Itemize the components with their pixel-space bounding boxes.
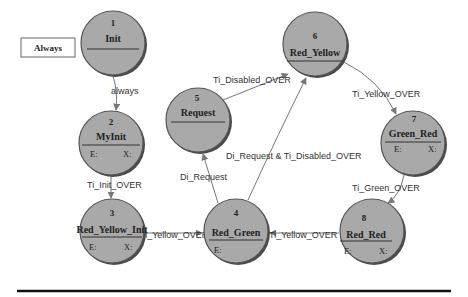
edge-label: Di_Request — [180, 172, 228, 182]
node-exit: X: — [123, 149, 132, 159]
node-entry: E: — [344, 246, 352, 256]
edge-label: Ti_Yellow_OVER — [140, 230, 209, 240]
node-6-red-yellow[interactable]: 6 Red_Yellow — [283, 12, 349, 78]
node-3-red-yellow-init[interactable]: 3 Red_Yellow_Init E: X: — [76, 199, 148, 265]
node-number: 2 — [109, 117, 114, 127]
node-name: Red_Yellow_Init — [76, 224, 148, 235]
node-number: 5 — [195, 93, 200, 103]
edge-3-4[interactable]: Ti_Yellow_OVER — [140, 230, 209, 240]
node-number: 8 — [362, 213, 367, 223]
node-name: Request — [181, 107, 216, 118]
node-number: 7 — [412, 114, 417, 124]
node-number: 6 — [313, 31, 318, 41]
node-number: 3 — [110, 208, 115, 218]
edge-2-3[interactable]: Ti_Init_OVER — [87, 176, 142, 198]
always-legend-label: Always — [34, 43, 62, 53]
node-exit: X: — [428, 144, 437, 154]
edge-label: Ti_Yellow_OVER — [269, 230, 338, 240]
node-entry: E: — [90, 149, 98, 159]
node-name: MyInit — [96, 131, 127, 142]
edge-label: Ti_Disabled_OVER — [213, 75, 291, 85]
node-4-red-green[interactable]: 4 Red_Green E: — [204, 199, 270, 265]
node-8-red-red[interactable]: 8 Red_Red E: X: — [340, 199, 406, 265]
node-name: Init — [105, 33, 121, 44]
edge-8-4[interactable]: Ti_Yellow_OVER — [269, 230, 339, 240]
node-entry: E: — [394, 144, 402, 154]
node-entry: E: — [89, 242, 97, 252]
always-legend-box: Always — [21, 38, 75, 57]
edge-4-6[interactable]: Di_Request & Ti_Disabled_OVER — [226, 78, 362, 200]
edge-label: Ti_Yellow_OVER — [352, 89, 421, 99]
edge-7-8[interactable]: Ti_Green_OVER — [352, 175, 420, 203]
edge-5-6[interactable]: Ti_Disabled_OVER — [213, 74, 291, 100]
edge-label: Ti_Green_OVER — [352, 183, 420, 193]
edge-1-2[interactable]: always — [111, 76, 139, 110]
node-2-myinit[interactable]: 2 MyInit E: X: — [79, 111, 145, 177]
node-7-green-red[interactable]: 7 Green_Red E: X: — [381, 111, 447, 177]
node-number: 4 — [234, 208, 239, 218]
node-name: Red_Yellow — [290, 47, 341, 58]
node-exit: X: — [379, 246, 388, 256]
state-diagram: Always always Ti_Init_OVER Ti_Yellow_OVE… — [0, 0, 468, 297]
edge-label: Ti_Init_OVER — [87, 180, 142, 190]
node-name: Red_Green — [212, 227, 261, 238]
node-name: Red_Red — [346, 229, 386, 240]
node-5-request[interactable]: 5 Request — [166, 88, 232, 154]
node-name: Green_Red — [389, 128, 438, 139]
edge-6-7[interactable]: Ti_Yellow_OVER — [344, 62, 421, 114]
edge-4-5[interactable]: Di_Request — [180, 154, 228, 203]
edge-label: always — [111, 86, 139, 96]
node-entry: E: — [214, 245, 222, 255]
node-1-init[interactable]: 1 Init — [81, 11, 147, 77]
node-number: 1 — [111, 18, 116, 28]
edge-label: Di_Request & Ti_Disabled_OVER — [226, 151, 362, 161]
node-exit: X: — [124, 242, 133, 252]
